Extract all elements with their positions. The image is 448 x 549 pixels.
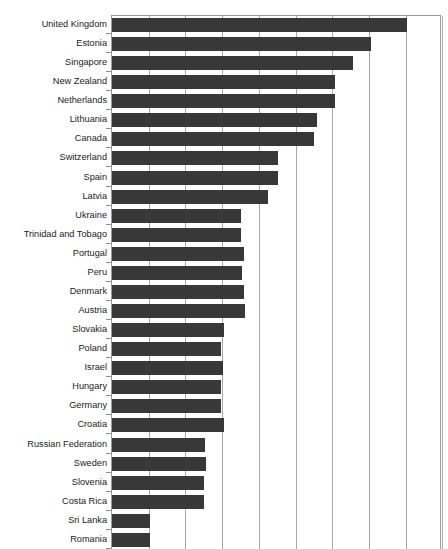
bar xyxy=(112,228,241,242)
bar xyxy=(112,342,221,356)
category-label: Canada xyxy=(0,131,107,145)
plot-area xyxy=(111,15,441,549)
category-label: Latvia xyxy=(0,189,107,203)
category-label: Slovakia xyxy=(0,322,107,336)
category-label: Denmark xyxy=(0,284,107,298)
bar xyxy=(112,495,204,509)
category-label: Poland xyxy=(0,341,107,355)
bar xyxy=(112,304,245,318)
category-label: Lithuania xyxy=(0,112,107,126)
bar xyxy=(112,476,204,490)
category-label: United Kingdom xyxy=(0,17,107,31)
bar xyxy=(112,266,242,280)
bar xyxy=(112,18,407,32)
bar xyxy=(112,113,317,127)
category-label: Austria xyxy=(0,303,107,317)
bar xyxy=(112,380,221,394)
category-label: Israel xyxy=(0,360,107,374)
category-label: Netherlands xyxy=(0,93,107,107)
bar xyxy=(112,399,221,413)
bar xyxy=(112,151,278,165)
bar xyxy=(112,361,223,375)
bar xyxy=(112,190,268,204)
category-label: Germany xyxy=(0,398,107,412)
bar xyxy=(112,418,224,432)
bar-chart: United KingdomEstoniaSingaporeNew Zealan… xyxy=(0,0,448,549)
category-label: Switzerland xyxy=(0,150,107,164)
bar xyxy=(112,514,150,528)
category-label: New Zealand xyxy=(0,74,107,88)
category-axis: United KingdomEstoniaSingaporeNew Zealan… xyxy=(0,15,107,549)
category-label: Trinidad and Tobago xyxy=(0,227,107,241)
category-label: Portugal xyxy=(0,246,107,260)
category-label: Singapore xyxy=(0,55,107,69)
category-label: Slovenia xyxy=(0,475,107,489)
category-label: Estonia xyxy=(0,36,107,50)
bar xyxy=(112,285,244,299)
category-label: Spain xyxy=(0,170,107,184)
bars-layer xyxy=(112,16,440,549)
gridline xyxy=(442,16,443,549)
bar xyxy=(112,94,335,108)
category-label: Hungary xyxy=(0,379,107,393)
bar xyxy=(112,323,224,337)
bar xyxy=(112,171,278,185)
bar xyxy=(112,438,205,452)
bar xyxy=(112,247,244,261)
category-label: Peru xyxy=(0,265,107,279)
bar xyxy=(112,132,314,146)
category-label: Costa Rica xyxy=(0,494,107,508)
bar xyxy=(112,75,335,89)
category-label: Russian Federation xyxy=(0,437,107,451)
bar xyxy=(112,37,371,51)
bar xyxy=(112,209,241,223)
bar xyxy=(112,457,206,471)
category-label: Ukraine xyxy=(0,208,107,222)
bar xyxy=(112,56,353,70)
category-label: Sri Lanka xyxy=(0,513,107,527)
category-label: Croatia xyxy=(0,417,107,431)
category-label: Romania xyxy=(0,532,107,546)
bar xyxy=(112,533,150,547)
category-label: Sweden xyxy=(0,456,107,470)
